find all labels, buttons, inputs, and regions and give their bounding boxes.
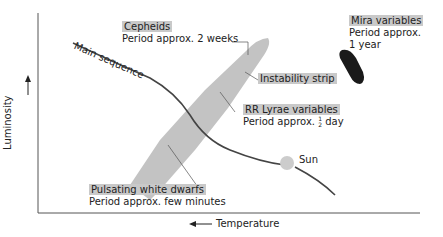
y-axis-label: Luminosity <box>2 95 13 150</box>
sun-label: Sun <box>299 154 318 166</box>
instability-strip-label: Instability strip <box>258 73 337 85</box>
x-axis-label: Temperature <box>216 218 279 230</box>
mira-label: Mira variables Period approx. 1 year <box>349 15 423 51</box>
x-arrow-icon <box>189 221 196 227</box>
cepheids-label: Cepheids Period approx. 2 weeks <box>122 21 238 45</box>
rr-lyrae-label: RR Lyrae variables Period approx. 1 2 da… <box>243 104 344 128</box>
mira-blob <box>339 50 364 84</box>
sun-icon <box>280 156 294 170</box>
y-arrow-icon <box>25 75 31 82</box>
white-dwarfs-label: Pulsating white dwarfs Period approx. fe… <box>89 184 226 208</box>
